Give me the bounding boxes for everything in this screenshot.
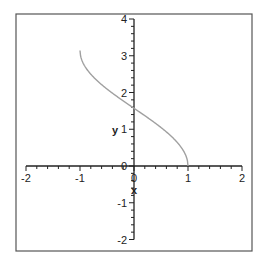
y-tick-label: 3: [121, 50, 127, 62]
y-tick-label: 1: [121, 123, 127, 135]
y-tick-label: -1: [117, 197, 127, 209]
x-tick-label: -1: [75, 172, 85, 184]
y-tick-label: 0: [121, 160, 127, 172]
x-axis-label: x: [131, 184, 138, 196]
y-axis-label: y: [112, 124, 119, 136]
chart-canvas: -2-1120-2-101234 x y: [0, 0, 265, 267]
y-tick-label: 2: [121, 87, 127, 99]
x-tick-label: -2: [21, 172, 31, 184]
y-tick-label: 4: [121, 13, 127, 25]
y-tick-label: -2: [117, 234, 127, 246]
x-tick-label: 2: [239, 172, 245, 184]
x-tick-label: 0: [131, 172, 137, 184]
x-tick-label: 1: [185, 172, 191, 184]
